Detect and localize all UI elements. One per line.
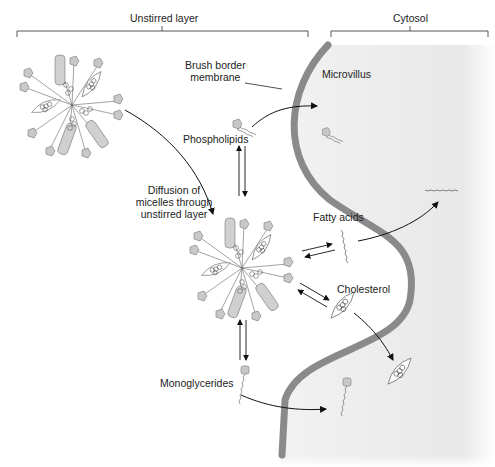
fatty-acid-molecule <box>341 230 348 263</box>
diffusion-label: Diffusion of micelles through unstirred … <box>132 184 216 220</box>
brush-border-label: Brush border membrane <box>185 59 246 83</box>
brush-border-leader <box>245 83 282 89</box>
microvillus-label: Microvillus <box>322 68 371 80</box>
fatty-acids-label: Fatty acids <box>313 211 364 223</box>
cytosol-label: Cytosol <box>393 12 428 24</box>
unstirred-layer-bracket <box>17 26 308 37</box>
diagram-canvas <box>0 0 495 467</box>
cholesterol-molecule <box>325 292 360 319</box>
micelle-top-left <box>20 55 123 158</box>
phospholipids-label: Phospholipids <box>183 133 248 145</box>
monoglycerides-label: Monoglycerides <box>160 377 234 389</box>
cytosol-bracket <box>331 26 488 37</box>
cholesterol-label: Cholesterol <box>337 283 390 295</box>
micelle-center <box>190 218 293 321</box>
unstirred-layer-label: Unstirred layer <box>130 12 198 24</box>
